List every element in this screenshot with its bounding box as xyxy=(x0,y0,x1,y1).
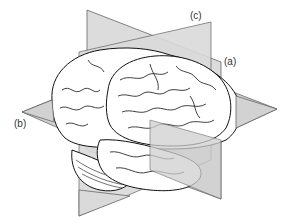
label-c: (c) xyxy=(190,10,202,21)
label-b: (b) xyxy=(14,118,26,129)
brain-planes-diagram: (c) (a) (b) xyxy=(0,0,292,224)
diagram-canvas xyxy=(0,0,292,224)
label-a: (a) xyxy=(224,56,236,67)
